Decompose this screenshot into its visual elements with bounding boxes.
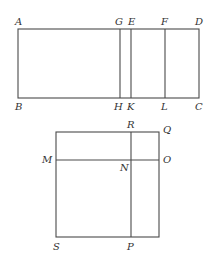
label-n: N [119,162,130,173]
label-o: O [163,154,171,165]
label-h: H [113,101,123,112]
label-g: G [115,16,123,27]
label-p: P [126,241,134,252]
geometry-diagram: A G E F D B H K L C R Q M N O S P [0,0,217,265]
label-l: L [160,101,168,112]
label-s: S [53,241,60,252]
square-outline [56,132,159,237]
rectangle-abcd [18,29,199,98]
label-f: F [160,16,169,27]
label-d: D [194,16,203,27]
label-r: R [126,119,135,130]
label-a: A [14,16,22,27]
label-m: M [41,154,53,165]
figure-1-rectangle: A G E F D B H K L C [14,16,203,112]
label-e: E [127,16,136,27]
label-q: Q [163,124,171,135]
figure-2-square: R Q M N O S P [41,119,171,252]
label-k: K [126,101,135,112]
label-b: B [14,101,22,112]
label-c: C [195,101,203,112]
